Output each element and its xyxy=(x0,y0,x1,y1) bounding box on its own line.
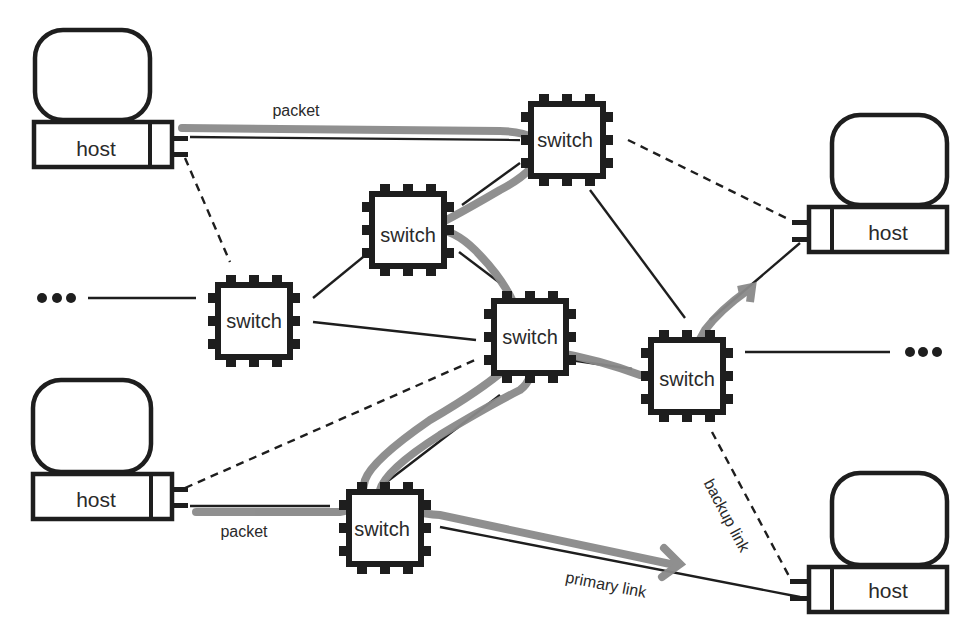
link-switchleft-switchupper xyxy=(313,253,368,298)
host-bottom-right[interactable]: host xyxy=(790,473,947,612)
switch-left[interactable]: switch xyxy=(208,275,300,367)
port-icon xyxy=(790,579,809,584)
backup-link-hosttl-switchleft xyxy=(185,158,230,262)
switch-label: switch xyxy=(380,224,436,246)
port-icon xyxy=(172,487,188,492)
port-icon xyxy=(792,237,809,242)
host-bottom-left[interactable]: host xyxy=(33,380,188,519)
backup-link-switchtop-hostr xyxy=(628,140,790,220)
monitor-icon xyxy=(35,30,150,120)
link-hosttl-switchtop xyxy=(190,137,520,140)
port-icon xyxy=(172,152,188,157)
monitor-icon xyxy=(832,473,947,565)
packet-label-top: packet xyxy=(272,102,320,119)
switch-center[interactable]: switch xyxy=(484,291,576,383)
port-icon xyxy=(792,220,809,225)
host-label: host xyxy=(868,579,908,602)
switch-label: switch xyxy=(226,310,282,332)
ellipsis-right xyxy=(905,347,942,357)
host-top-left[interactable]: host xyxy=(34,30,188,167)
switch-label: switch xyxy=(502,326,558,348)
network-diagram: host host host host switch switch xyxy=(0,0,977,638)
switch-label: switch xyxy=(537,129,593,151)
host-label: host xyxy=(76,488,116,511)
monitor-icon xyxy=(33,380,151,472)
switch-right[interactable]: switch xyxy=(641,330,733,422)
primary-link-label: primary link xyxy=(564,568,649,600)
packet-label-bottom: packet xyxy=(220,523,268,540)
backup-link-label: backup link xyxy=(701,476,754,556)
host-label: host xyxy=(76,137,116,160)
link-switchleft-switchcenter xyxy=(313,322,476,340)
port-icon xyxy=(790,596,809,601)
ellipsis-left xyxy=(37,293,76,303)
switch-upper-mid[interactable]: switch xyxy=(362,184,454,276)
switch-top[interactable]: switch xyxy=(521,94,613,186)
backup-link-hostbl-switchcenter xyxy=(185,360,475,488)
monitor-icon xyxy=(832,115,947,205)
link-switchtop-switchright xyxy=(590,190,685,318)
switch-label: switch xyxy=(659,368,715,390)
switch-label: switch xyxy=(354,518,410,540)
port-icon xyxy=(172,136,188,141)
port-icon xyxy=(172,503,188,508)
switch-bottom[interactable]: switch xyxy=(339,482,431,574)
host-right-upper[interactable]: host xyxy=(792,115,947,252)
host-label: host xyxy=(868,221,908,244)
